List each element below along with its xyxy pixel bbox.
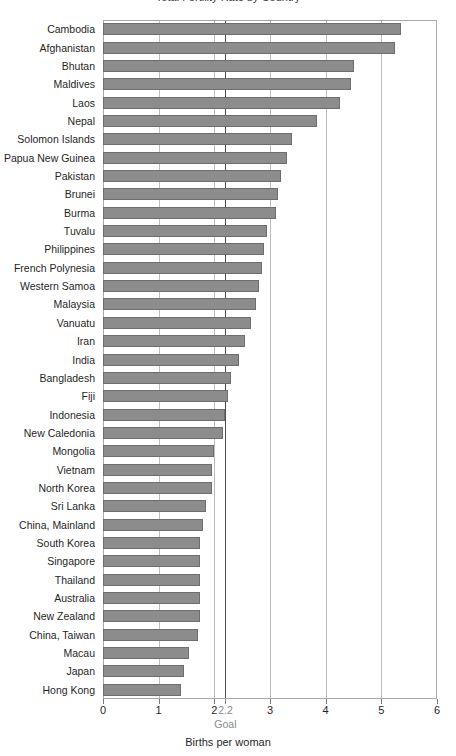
bar-thailand [103,574,200,586]
category-label: French Polynesia [14,259,95,277]
category-label: South Korea [37,534,95,552]
bar-tuvalu [103,225,267,237]
goal-caption: Goal [205,718,245,730]
chart-row: Mongolia [0,442,456,460]
bar-singapore [103,555,200,567]
bar-vietnam [103,464,212,476]
bar-sri-lanka [103,500,206,512]
category-label: New Zealand [33,607,95,625]
category-label: Bhutan [62,57,95,75]
chart-row: Philippines [0,240,456,258]
chart-row: Cambodia [0,20,456,38]
category-label: Hong Kong [42,681,95,699]
chart-row: Burma [0,204,456,222]
category-label: Sri Lanka [51,497,95,515]
chart-row: Laos [0,94,456,112]
bars-container: CambodiaAfghanistanBhutanMaldivesLaosNep… [0,20,456,699]
category-label: Japan [66,662,95,680]
bar-cambodia [103,23,401,35]
category-label: Laos [72,94,95,112]
chart-row: Thailand [0,571,456,589]
bar-china-taiwan [103,629,198,641]
chart-row: Bangladesh [0,369,456,387]
bar-fiji [103,390,228,402]
x-tick-label: 0 [88,704,118,716]
bar-french-polynesia [103,262,262,274]
category-label: Macau [63,644,95,662]
bar-pakistan [103,170,281,182]
bar-mongolia [103,445,214,457]
chart-row: Hong Kong [0,681,456,699]
bar-malaysia [103,298,256,310]
category-label: New Caledonia [24,424,95,442]
category-label: India [72,351,95,369]
category-label: Papua New Guinea [4,149,95,167]
bar-new-zealand [103,610,200,622]
category-label: Cambodia [47,20,95,38]
bar-bangladesh [103,372,231,384]
bar-solomon-islands [103,133,292,145]
bar-vanuatu [103,317,251,329]
x-tick-label: 3 [255,704,285,716]
chart-row: Malaysia [0,295,456,313]
bar-macau [103,647,189,659]
category-label: Burma [64,204,95,222]
x-tick-label: 4 [311,704,341,716]
bar-hong-kong [103,684,181,696]
chart-row: Nepal [0,112,456,130]
chart-row: New Zealand [0,607,456,625]
bar-bhutan [103,60,354,72]
chart-row: Sri Lanka [0,497,456,515]
chart-row: Fiji [0,387,456,405]
category-label: Malaysia [54,295,95,313]
bar-philippines [103,243,264,255]
goal-value-label: 2.2 [210,704,240,716]
bar-laos [103,97,340,109]
chart-row: Western Samoa [0,277,456,295]
chart-row: North Korea [0,479,456,497]
category-label: Afghanistan [40,39,95,57]
chart-row: Solomon Islands [0,130,456,148]
fertility-rate-bar-chart: Total Fertility Rate by Country Cambodia… [0,0,456,756]
bar-japan [103,665,184,677]
bar-australia [103,592,200,604]
chart-row: Australia [0,589,456,607]
chart-row: New Caledonia [0,424,456,442]
category-label: Brunei [65,185,95,203]
chart-row: Macau [0,644,456,662]
chart-row: South Korea [0,534,456,552]
category-label: Australia [54,589,95,607]
x-tick-label: 5 [366,704,396,716]
category-label: Pakistan [55,167,95,185]
chart-row: Pakistan [0,167,456,185]
chart-row: Brunei [0,185,456,203]
bar-nepal [103,115,317,127]
category-label: Thailand [55,571,95,589]
bar-brunei [103,188,278,200]
bar-iran [103,335,245,347]
chart-row: Vietnam [0,461,456,479]
category-label: Tuvalu [64,222,95,240]
bar-burma [103,207,276,219]
chart-title: Total Fertility Rate by Country [0,0,456,5]
chart-row: French Polynesia [0,259,456,277]
bar-china-mainland [103,519,203,531]
category-label: Indonesia [49,406,95,424]
bar-maldives [103,78,351,90]
category-label: Vietnam [57,461,95,479]
category-label: Vanuatu [57,314,95,332]
category-label: Solomon Islands [17,130,95,148]
chart-row: Vanuatu [0,314,456,332]
bar-north-korea [103,482,212,494]
bar-papua-new-guinea [103,152,287,164]
category-label: Philippines [44,240,95,258]
x-tick-label: 6 [422,704,452,716]
category-label: Nepal [68,112,95,130]
bar-south-korea [103,537,200,549]
category-label: North Korea [38,479,95,497]
chart-row: Indonesia [0,406,456,424]
chart-row: Singapore [0,552,456,570]
category-label: Western Samoa [20,277,95,295]
category-label: Fiji [82,387,95,405]
chart-row: Japan [0,662,456,680]
